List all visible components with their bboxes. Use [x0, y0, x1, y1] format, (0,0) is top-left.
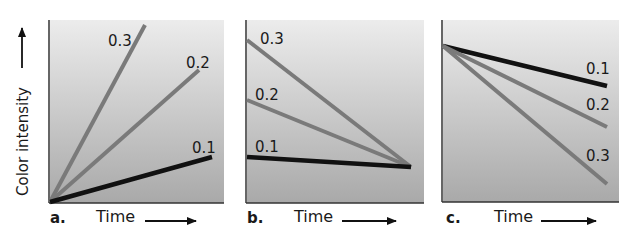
series-label-b-0.1: 0.1	[255, 138, 279, 156]
series-label-b-0.3: 0.3	[260, 30, 284, 48]
series-label-a-0.1: 0.1	[192, 139, 216, 157]
y-axis-label: Color intensity	[14, 87, 32, 196]
series-label-c-0.3: 0.3	[586, 147, 610, 165]
panel-c: 0.10.20.3	[442, 20, 619, 202]
panel-a: 0.30.20.1	[49, 20, 224, 203]
panel-label-a: a.	[50, 209, 66, 227]
xlabel-a: Time	[96, 207, 135, 226]
series-label-c-0.1: 0.1	[586, 60, 610, 78]
series-label-b-0.2: 0.2	[255, 86, 279, 104]
panel-b: 0.30.20.1	[246, 20, 424, 203]
panel-label-b: b.	[247, 209, 263, 227]
xlabel-c: Time	[494, 207, 533, 226]
xlabel-b: Time	[294, 207, 333, 226]
series-label-c-0.2: 0.2	[586, 96, 610, 114]
series-label-a-0.2: 0.2	[186, 54, 210, 72]
series-label-a-0.3: 0.3	[108, 32, 132, 50]
panel-label-c: c.	[446, 209, 461, 227]
